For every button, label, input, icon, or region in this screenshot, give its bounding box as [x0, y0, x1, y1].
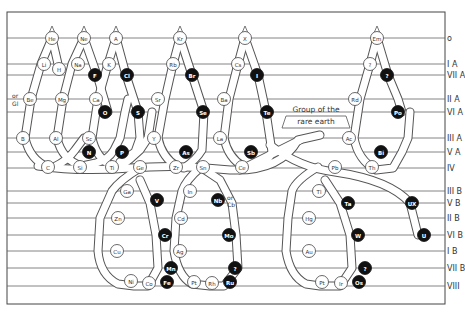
element-symbol: Kr: [177, 36, 184, 42]
group-label: VII A: [447, 71, 465, 80]
element-symbol: Ba: [220, 97, 227, 103]
element-symbol: Ca: [92, 97, 99, 103]
element-symbol: Sc: [86, 136, 93, 142]
callout-line-1: Group of the: [292, 105, 340, 114]
group-label: II A: [447, 95, 460, 104]
element-symbol: Br: [189, 73, 196, 79]
element-symbol: ?: [233, 266, 236, 272]
element-symbol: A: [114, 36, 118, 42]
group-label: V B: [447, 199, 461, 208]
element-symbol: Tl: [316, 189, 322, 195]
element-node: Ba: [218, 93, 231, 106]
element-symbol: Ne: [80, 36, 88, 42]
element-symbol: Sr: [155, 97, 161, 103]
element-node: N: [83, 146, 96, 159]
element-node: Bi: [375, 146, 388, 159]
element-symbol: Te: [264, 110, 271, 116]
alt-symbol-note: or: [227, 194, 234, 201]
element-symbol: Se: [199, 110, 207, 116]
group-label: o: [447, 34, 452, 43]
element-symbol: Si: [77, 165, 82, 171]
element-symbol: Em: [373, 36, 382, 42]
element-node: Kr: [174, 32, 187, 45]
element-symbol: Zr: [173, 165, 180, 171]
element-node: Cs: [232, 58, 245, 71]
element-symbol: Cl: [124, 73, 130, 79]
element-symbol: Ac: [346, 136, 353, 142]
element-symbol: Y: [151, 136, 156, 142]
element-symbol: S: [136, 110, 140, 116]
element-symbol: Na: [74, 62, 82, 68]
element-node: Hg: [303, 212, 316, 225]
element-symbol: F: [93, 73, 97, 79]
element-symbol: ?: [385, 73, 388, 79]
element-symbol: Fe: [163, 280, 171, 286]
element-node: Mo: [223, 229, 236, 242]
element-node: O: [99, 106, 112, 119]
element-node: Ti: [106, 161, 119, 174]
diagram-canvas: oI AVII AII AVI AIII AV AIVIII BV BII BV…: [0, 0, 465, 312]
element-node: Li: [38, 58, 51, 71]
element-node: Tl: [313, 185, 326, 198]
element-symbol: W: [355, 233, 361, 239]
periodic-spiral-diagram: oI AVII AII AVI AIII AV AIVIII BV BII BV…: [0, 0, 465, 312]
element-symbol: He: [48, 36, 56, 42]
element-node: Cl: [121, 69, 134, 82]
element-node: Fe: [161, 276, 174, 289]
element-node: UX: [406, 197, 419, 210]
element-node: Co: [143, 277, 156, 290]
element-symbol: Mg: [58, 97, 66, 104]
element-node: Pb: [329, 161, 342, 174]
callout-line-2: rare earth: [297, 117, 335, 126]
element-node: Sc: [83, 132, 96, 145]
element-symbol: Ga: [123, 189, 131, 195]
element-symbol: H: [57, 67, 61, 73]
element-symbol: Cs: [235, 62, 242, 68]
element-node: Na: [72, 58, 85, 71]
element-symbol: Pb: [332, 165, 339, 171]
element-symbol: Au: [305, 249, 312, 255]
element-node: Em: [371, 32, 384, 45]
element-node: Th: [366, 161, 379, 174]
element-symbol: Co: [145, 281, 153, 287]
element-node: Rb: [167, 58, 180, 71]
element-symbol: Rd: [351, 97, 358, 103]
element-node: Ir: [335, 277, 348, 290]
element-node: Mg: [56, 93, 69, 106]
element-symbol: V: [155, 198, 160, 204]
element-node: Y: [148, 132, 161, 145]
element-node: Ne: [78, 32, 91, 45]
element-symbol: Li: [42, 62, 47, 68]
element-node: C: [42, 161, 55, 174]
element-node: Au: [303, 245, 316, 258]
group-label: VI B: [447, 231, 463, 240]
element-symbol: Be: [26, 97, 34, 103]
element-node: ?: [229, 262, 242, 275]
element-node: He: [46, 32, 59, 45]
element-symbol: Po: [394, 110, 402, 116]
element-node: I: [251, 69, 264, 82]
element-symbol: Pt: [319, 280, 325, 286]
alt-symbol-note: or: [12, 92, 19, 99]
element-node: Nb: [212, 194, 225, 207]
element-node: H: [53, 63, 66, 76]
element-symbol: Ru: [226, 280, 234, 286]
element-symbol: Rb: [169, 62, 177, 68]
element-node: Po: [392, 106, 405, 119]
element-symbol: Mo: [224, 233, 233, 239]
element-node: In: [184, 185, 197, 198]
element-node: Os: [353, 276, 366, 289]
element-node: U: [418, 229, 431, 242]
element-symbol: La: [217, 136, 223, 142]
element-node: K: [103, 58, 116, 71]
element-symbol: O: [103, 110, 108, 116]
element-node: V: [151, 194, 164, 207]
element-node: Sn: [197, 161, 210, 174]
element-symbol: I: [256, 73, 258, 79]
element-node: Se: [197, 106, 210, 119]
element-node: Sb: [245, 146, 258, 159]
element-symbol: Cr: [162, 233, 169, 239]
element-symbol: ?: [363, 266, 366, 272]
element-symbol: Ni: [128, 279, 134, 285]
element-node: Zr: [170, 161, 183, 174]
